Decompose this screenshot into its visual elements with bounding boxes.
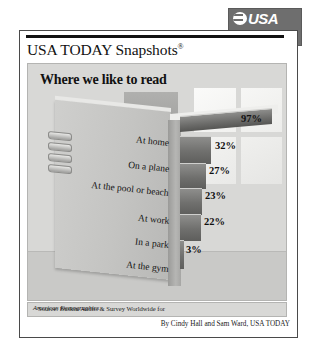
value-label-at-the-gym: 3%: [186, 244, 202, 255]
value-label-on-a-plane: 32%: [215, 140, 236, 151]
category-label-group: At home On a plane At the pool or beach …: [55, 112, 171, 280]
category-label: At the pool or beach: [91, 180, 169, 198]
value-label-at-work: 23%: [205, 190, 226, 201]
value-label-in-a-park: 22%: [204, 216, 225, 227]
category-label: At the gym: [126, 260, 170, 274]
source-bar: Source: Buskin/Audits & Survey Worldwide…: [27, 302, 287, 317]
chart-title: Where we like to read: [40, 72, 167, 88]
page-title: USA TODAY Snapshots®: [27, 41, 184, 59]
bar-at-work: [180, 188, 202, 215]
usa-today-globe-icon: [233, 12, 247, 25]
header-rule: [26, 35, 284, 38]
value-label-at-the-pool-or-beach: 27%: [209, 165, 230, 176]
source-prefix: Source: Buskin/Audits & Survey Worldwide…: [38, 305, 165, 312]
category-label: On a plane: [128, 160, 170, 174]
category-label: At home: [136, 135, 170, 148]
bar-on-a-plane: [180, 136, 211, 164]
value-label-at-home: 97%: [241, 113, 262, 124]
bar-at-the-pool-or-beach: [180, 163, 206, 189]
logo-usa-text: USA: [248, 11, 278, 26]
snapshot-card: USA TODAY Snapshots® Where we like to re…: [19, 30, 298, 338]
snapshot-infographic: USA TODAY. USA TODAY Snapshots® Where we…: [0, 0, 315, 347]
illustration-panel: Where we like to read At home On a plane: [27, 63, 287, 301]
category-label: In a park: [135, 236, 170, 249]
logo-top-row: USA: [229, 10, 301, 27]
source-text: Source: Buskin/Audits & Survey Worldwide…: [33, 304, 99, 311]
registered-mark: ®: [178, 42, 184, 51]
category-label: At work: [137, 213, 169, 226]
brand-title-text: USA TODAY Snapshots: [27, 41, 178, 58]
byline: By Cindy Hall and Sam Ward, USA TODAY: [161, 320, 290, 328]
bar-in-a-park: [180, 214, 201, 241]
bar-at-the-gym: [180, 240, 184, 269]
